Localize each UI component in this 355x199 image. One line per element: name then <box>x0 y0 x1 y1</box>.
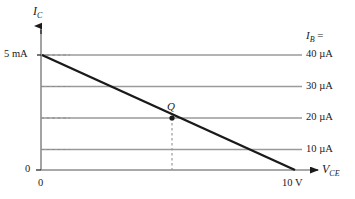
plot-canvas <box>0 0 355 199</box>
y-axis-subscript: C <box>37 11 42 20</box>
y-tick-label-zero: 0 <box>25 164 30 175</box>
y-tick-label-5ma: 5 mA <box>4 49 28 60</box>
x-axis-subscript: CE <box>329 169 339 178</box>
curve-label-40ua: 40 µA <box>306 49 333 60</box>
load-line-figure: IC VCE 5 mA 0 0 10 V IB = 40 µA 30 µA 20… <box>0 0 355 199</box>
x-tick-label-10v: 10 V <box>282 178 303 189</box>
q-point-marker <box>169 115 174 120</box>
x-axis-label: VCE <box>322 163 340 178</box>
curve-label-20ua: 20 µA <box>306 112 333 123</box>
curve-label-10ua: 10 µA <box>306 144 333 155</box>
curve-label-30ua: 30 µA <box>306 81 333 92</box>
y-axis-label: IC <box>33 5 42 20</box>
x-tick-label-zero: 0 <box>38 178 43 189</box>
legend-header: IB = <box>306 30 324 44</box>
legend-header-equals: = <box>315 29 324 41</box>
dc-load-line <box>42 55 295 170</box>
q-point-label: Q <box>167 101 175 112</box>
